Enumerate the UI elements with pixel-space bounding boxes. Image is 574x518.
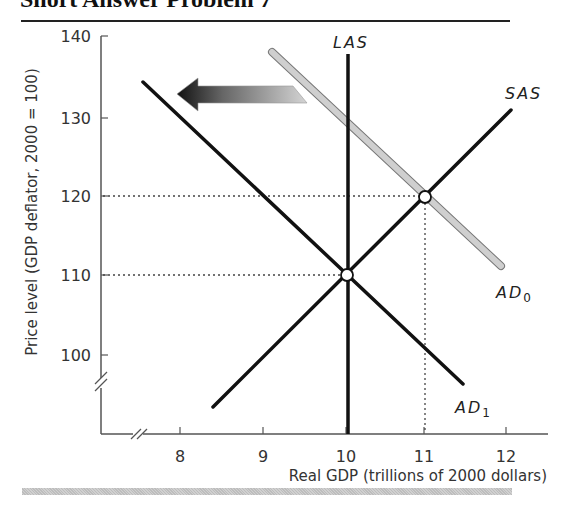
y-tick-120: 120 (60, 187, 91, 206)
sas-curve (213, 110, 511, 407)
guide-lines (103, 196, 425, 432)
y-tick-110: 110 (60, 266, 91, 285)
x-axis-title: Real GDP (trillions of 2000 dollars) (289, 467, 547, 485)
x-tick-8: 8 (175, 447, 185, 466)
x-tick-12: 12 (496, 447, 516, 466)
left-shift-arrow-icon (177, 78, 307, 111)
sas-label: SAS (505, 84, 542, 103)
bottom-divider (22, 488, 512, 495)
x-tick-10: 10 (336, 447, 356, 466)
ad0-label: AD0 (495, 283, 533, 305)
y-tick-130: 130 (60, 109, 91, 128)
ad1-label: AD1 (454, 398, 492, 420)
equilibrium-point-110 (341, 269, 353, 281)
y-tick-140: 140 (60, 27, 91, 46)
y-tick-100: 100 (60, 346, 91, 365)
as-ad-chart: 140 130 120 110 100 8 9 10 11 12 Real GD… (0, 0, 574, 518)
las-label: LAS (333, 33, 369, 52)
x-tick-11: 11 (414, 447, 434, 466)
x-tick-9: 9 (258, 447, 268, 466)
y-axis-title: Price level (GDP deflator, 2000 = 100) (23, 68, 41, 356)
equilibrium-point-120 (419, 191, 431, 203)
ad1-curve (143, 82, 463, 384)
